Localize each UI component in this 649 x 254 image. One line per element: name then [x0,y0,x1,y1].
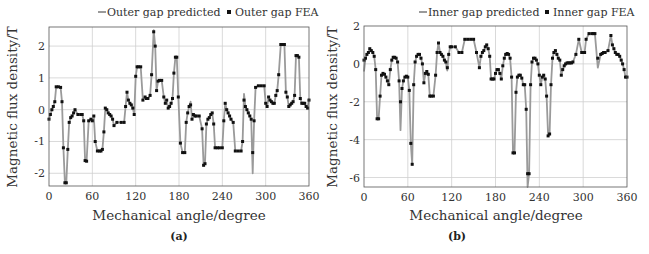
fea-square-marker-icon [241,140,244,143]
fea-square-marker-icon [371,51,374,54]
fea-square-marker-icon [228,115,231,118]
fea-square-marker-icon [561,68,564,71]
fea-square-marker-icon [293,94,296,97]
fea-square-marker-icon [81,113,84,116]
fea-square-marker-icon [189,103,192,106]
fea-square-marker-icon [260,84,263,87]
fea-square-marker-icon [531,61,534,64]
y-tick-label: 2 [38,40,45,53]
fea-square-marker-icon [509,57,512,60]
fea-square-marker-icon [205,123,208,126]
y-tick-label: 0 [38,104,45,117]
fea-square-marker-icon [406,76,409,79]
fea-square-marker-icon [510,76,513,79]
fea-square-marker-icon [469,38,472,41]
panel-b-caption: (b) [448,230,466,243]
fea-square-marker-icon [528,172,531,175]
fea-square-marker-icon [560,74,563,77]
x-tick-label: 300 [255,190,276,203]
y-tick-label: -4 [349,134,360,147]
y-tick-label: 2 [353,20,360,33]
fea-square-marker-icon [146,97,149,100]
fea-square-marker-icon [387,83,390,86]
fea-square-marker-icon [618,55,621,58]
fea-square-marker-icon [240,150,243,153]
fea-square-marker-icon [211,111,214,114]
fea-square-marker-icon [218,146,221,149]
fea-square-marker-icon [548,133,551,136]
fea-square-marker-icon [447,53,450,56]
fea-square-marker-icon [123,121,126,124]
fea-square-marker-icon [551,57,554,60]
fea-square-marker-icon [234,150,237,153]
fea-square-marker-icon [68,121,71,124]
panel-a-x-ticks: 060120180240300360 [46,190,320,203]
x-tick-label: 300 [573,191,594,204]
fea-square-marker-icon [409,142,412,145]
fea-square-marker-icon [232,121,235,124]
fea-square-marker-icon [244,105,247,108]
fea-square-marker-icon [434,74,437,77]
fea-square-marker-icon [120,121,123,124]
fea-square-marker-icon [254,86,257,89]
fea-square-marker-icon [266,105,269,108]
fea-square-marker-icon [536,62,539,65]
fea-square-marker-icon [609,34,612,37]
fea-square-marker-icon [620,59,623,62]
fea-square-marker-icon [102,130,105,133]
fea-square-marker-icon [212,123,215,126]
fea-square-marker-icon [497,68,500,71]
fea-square-marker-icon [475,51,478,54]
fea-square-marker-icon [460,51,463,54]
fea-square-marker-icon [85,160,88,163]
fea-square-marker-icon [588,32,591,35]
fea-square-marker-icon [364,57,367,60]
fea-square-marker-icon [420,57,423,60]
fea-square-marker-icon [621,62,624,65]
fea-square-marker-icon [208,116,211,119]
fea-square-marker-icon [503,57,506,60]
fea-square-marker-icon [222,119,225,122]
fea-square-marker-icon [274,94,277,97]
fea-square-marker-icon [542,74,545,77]
fea-square-marker-icon [195,115,198,118]
y-tick-label: -2 [349,96,360,109]
y-tick-label: -6 [349,172,360,185]
fea-square-marker-icon [612,47,615,50]
fea-square-marker-icon [267,96,270,99]
fea-square-marker-icon [422,81,425,84]
fea-square-marker-icon [611,43,614,46]
fea-square-marker-icon [436,51,439,54]
fea-square-marker-icon [237,150,240,153]
fea-square-marker-icon [555,53,558,56]
fea-square-marker-icon [110,115,113,118]
fea-square-marker-icon [583,51,586,54]
fea-square-marker-icon [149,94,152,97]
fea-square-marker-icon [401,87,404,90]
fea-square-marker-icon [507,53,510,56]
fea-square-marker-icon [62,146,65,149]
fea-square-marker-icon [286,96,289,99]
fea-square-marker-icon [577,38,580,41]
fea-square-marker-icon [133,113,136,116]
fea-square-marker-icon [558,59,561,62]
figure: 060120180240300360 -2-1012 Mechanical an… [0,0,649,254]
fea-square-marker-icon [487,47,490,50]
fea-square-marker-icon [383,73,386,76]
fea-square-marker-icon [71,115,74,118]
x-tick-label: 180 [485,191,506,204]
fea-square-marker-icon [398,79,401,82]
fea-square-marker-icon [519,74,522,77]
fea-square-marker-icon [479,55,482,58]
fea-square-marker-icon [437,42,440,45]
fea-square-marker-icon [446,66,449,69]
fea-square-marker-icon [250,118,253,121]
panel-b-chart: 060120180240300360 -6-4-202 Mechanical a… [324,6,638,243]
fea-square-marker-icon [115,121,118,124]
fea-square-marker-icon [389,68,392,71]
fea-square-marker-icon [53,100,56,103]
fea-square-marker-icon [283,43,286,46]
fea-square-marker-icon [571,61,574,64]
panel-b-x-ticks: 060120180240300360 [361,191,638,204]
fea-square-marker-icon [150,73,153,76]
